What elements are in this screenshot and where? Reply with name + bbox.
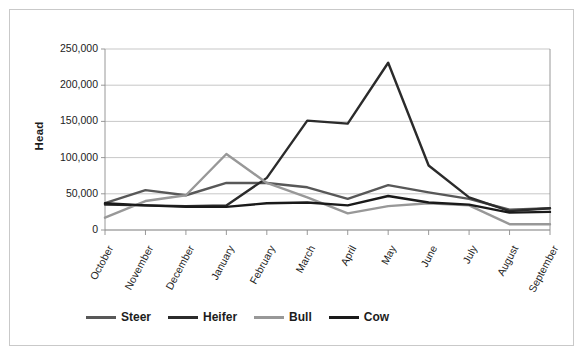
chart-figure: Head 050,000100,000150,000200,000250,000…	[0, 0, 585, 357]
legend-swatch-icon	[86, 316, 116, 319]
legend-label: Cow	[364, 310, 389, 324]
legend-label: Bull	[289, 310, 312, 324]
legend-label: Heifer	[203, 310, 237, 324]
chart-legend: SteerHeiferBullCow	[86, 305, 506, 329]
legend-item-cow[interactable]: Cow	[329, 310, 389, 324]
x-axis-ticks	[105, 230, 550, 235]
legend-swatch-icon	[329, 316, 359, 319]
legend-item-steer[interactable]: Steer	[86, 310, 151, 324]
data-series-group	[105, 63, 550, 224]
legend-item-heifer[interactable]: Heifer	[168, 310, 237, 324]
legend-item-bull[interactable]: Bull	[254, 310, 312, 324]
legend-swatch-icon	[168, 316, 198, 319]
line-chart-plot	[0, 0, 585, 357]
series-line-bull	[105, 154, 550, 224]
legend-swatch-icon	[254, 316, 284, 319]
legend-label: Steer	[121, 310, 151, 324]
